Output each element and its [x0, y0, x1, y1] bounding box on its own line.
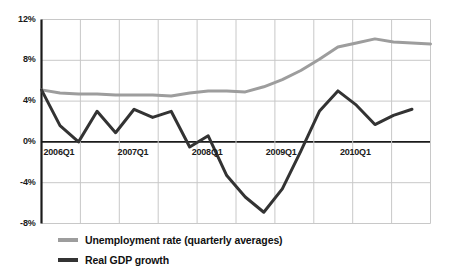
x-axis-tick-label: 2006Q1: [44, 147, 75, 157]
legend-item: Unemployment rate (quarterly averages): [58, 234, 283, 246]
x-axis-tick-label: 2010Q1: [340, 147, 371, 157]
y-axis-tick-label: 0%: [6, 136, 36, 146]
y-axis-tick-label: 8%: [6, 54, 36, 64]
legend-item: Real GDP growth: [58, 254, 169, 266]
x-axis-tick-label: 2008Q1: [192, 147, 223, 157]
y-axis-tick-label: -4%: [6, 177, 36, 187]
x-axis-tick-label: 2009Q1: [266, 147, 297, 157]
x-axis-tick-label: 2007Q1: [118, 147, 149, 157]
legend-label: Unemployment rate (quarterly averages): [85, 234, 283, 246]
legend-swatch-line-icon: [58, 258, 78, 262]
y-axis-tick-label: 4%: [6, 95, 36, 105]
y-axis-tick-label: -8%: [6, 218, 36, 228]
legend-label: Real GDP growth: [85, 254, 169, 266]
y-axis-tick-label: 12%: [6, 14, 36, 24]
legend-swatch-line-icon: [58, 238, 78, 242]
chart-figure: 12%8%4%0%-4%-8%2006Q12007Q12008Q12009Q12…: [0, 0, 449, 278]
